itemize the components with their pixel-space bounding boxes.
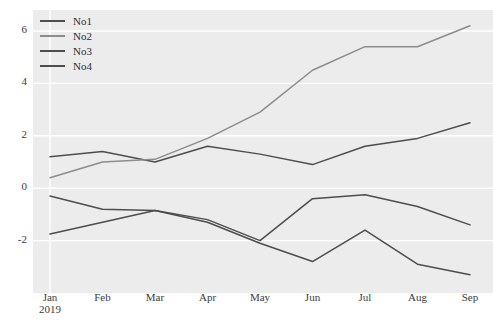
legend-label: No3	[73, 45, 92, 57]
legend-label: No4	[73, 60, 92, 72]
legend-swatch-icon	[40, 20, 65, 22]
x-tick-label: Jun	[291, 292, 335, 304]
x-tick-label-month: Jul	[343, 292, 387, 304]
x-tick-label-month: Mar	[133, 292, 177, 304]
x-tick-label: Aug	[396, 292, 440, 304]
y-tick-label: 6	[0, 24, 27, 36]
x-tick-label: May	[238, 292, 282, 304]
legend-swatch-icon	[40, 50, 65, 52]
x-tick-label-month: Jun	[291, 292, 335, 304]
x-tick-label: Jan2019	[28, 292, 72, 316]
legend-item-no1[interactable]: No1	[40, 13, 92, 28]
legend-label: No1	[73, 15, 92, 27]
legend-swatch-icon	[40, 65, 65, 67]
x-tick-label: Feb	[81, 292, 125, 304]
x-tick-label-month: Feb	[81, 292, 125, 304]
x-tick-label-month: Aug	[396, 292, 440, 304]
x-tick-label: Apr	[186, 292, 230, 304]
legend-item-no4[interactable]: No4	[40, 58, 92, 73]
legend: No1No2No3No4	[40, 13, 92, 73]
y-tick-label: 4	[0, 76, 27, 88]
legend-item-no3[interactable]: No3	[40, 43, 92, 58]
x-tick-label-month: Sep	[448, 292, 492, 304]
x-tick-label: Jul	[343, 292, 387, 304]
x-tick-label-year: 2019	[28, 304, 72, 316]
legend-item-no2[interactable]: No2	[40, 28, 92, 43]
y-tick-label: 2	[0, 129, 27, 141]
legend-label: No2	[73, 30, 92, 42]
x-tick-label: Sep	[448, 292, 492, 304]
y-tick-label: 0	[0, 181, 27, 193]
x-tick-label-month: Apr	[186, 292, 230, 304]
line-chart: 6420-2 Jan2019FebMarAprMayJunJulAugSep N…	[0, 0, 493, 321]
x-tick-label: Mar	[133, 292, 177, 304]
x-tick-label-month: May	[238, 292, 282, 304]
y-tick-label: -2	[0, 234, 27, 246]
legend-swatch-icon	[40, 35, 65, 37]
